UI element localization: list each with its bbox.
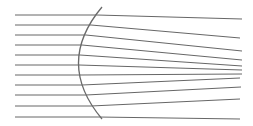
light-ray <box>15 15 242 19</box>
light-rays <box>15 15 242 119</box>
light-ray <box>15 74 242 75</box>
light-ray <box>15 99 240 106</box>
optics-diagram-canvas <box>0 0 253 126</box>
light-ray <box>15 78 240 85</box>
lens-ray-diagram <box>0 0 253 126</box>
light-ray <box>15 87 241 95</box>
light-ray <box>15 65 242 70</box>
lens-surface-curve <box>79 7 103 119</box>
light-ray <box>15 117 240 119</box>
light-ray <box>15 25 240 38</box>
light-ray <box>15 35 242 51</box>
